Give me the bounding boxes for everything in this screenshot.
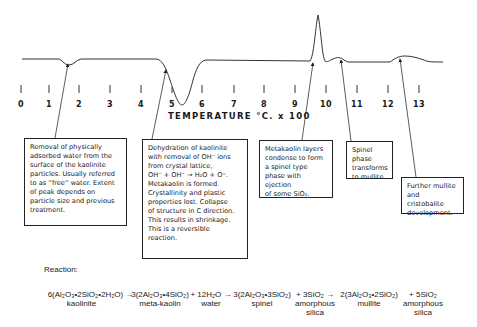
annotation-line: of peak depends on: [30, 188, 121, 197]
reaction-formula: 3(2Al₂O₃•3SiO₂): [230, 290, 294, 299]
annotation-line: Spinel phase: [352, 146, 387, 164]
annotation-line: adsorbed water from the: [30, 152, 121, 161]
annotation-line: This results in shrinkage.: [148, 216, 242, 225]
tick-label-6: 6: [199, 100, 205, 109]
tick-label-13: 13: [413, 100, 425, 109]
annotation-line: development.: [407, 209, 458, 218]
annotation-mullite-cristobalite: Further mullite and cristobalite develop…: [401, 177, 464, 214]
annotation-line: This is a reversible: [148, 225, 242, 234]
x-axis-ticks: [21, 85, 419, 93]
annotation-line: OH⁻ + OH⁻ → H₂O + O⁼.: [148, 171, 242, 180]
reaction-formula: + 12H₂O →: [186, 290, 236, 299]
tick-label-9: 9: [292, 100, 298, 109]
annotation-line: reaction.: [148, 234, 242, 243]
tick-label-8: 8: [261, 100, 267, 109]
reaction-compound-name: water: [186, 299, 236, 308]
reaction-compound-name: silica: [292, 308, 338, 317]
reaction-formula: 3(2Al₂O₃•4SiO₂): [125, 290, 195, 299]
x-axis-title: TEMPERATURE °C. x 100: [168, 111, 311, 121]
reaction-term-mullite: 2(3Al₂O₃•2SiO₂) mullite: [337, 290, 401, 308]
annotation-line: properties lost. Collapse: [148, 198, 242, 207]
annotation-line: from crystal lattice,: [148, 162, 242, 171]
reaction-compound-name: spinel: [230, 299, 294, 308]
reaction-formula: 2(3Al₂O₃•2SiO₂): [337, 290, 401, 299]
tick-label-4: 4: [138, 100, 144, 109]
annotation-spinel-to-mullite: Spinel phase transforms to mullite.: [346, 141, 393, 179]
annotation-line: treatment.: [30, 206, 121, 215]
tick-label-2: 2: [76, 100, 82, 109]
annotation-line: to mullite.: [352, 173, 387, 182]
reaction-term-kaolinite: 6(Al₂O₃•2SiO₂•2H₂O) → kaolinite: [43, 290, 138, 308]
annotation-line: Metakaolin is formed.: [148, 180, 242, 189]
tick-label-12: 12: [382, 100, 394, 109]
reaction-compound-name: silica: [400, 308, 446, 317]
dta-curve: [22, 15, 443, 105]
annotation-line: phase with ejection: [265, 172, 327, 190]
reaction-term-amorphous-silica-1: + 3SiO₂ → amorphous silica: [292, 290, 338, 317]
tick-label-5: 5: [169, 100, 175, 109]
reaction-compound-name: meta-kaolin: [125, 299, 195, 308]
annotation-line: particle size and previous: [30, 197, 121, 206]
annotation-line: Dehydration of kaolinite: [148, 144, 242, 153]
tick-label-10: 10: [320, 100, 332, 109]
reaction-compound-name: amorphous: [292, 299, 338, 308]
annotation-line: transforms: [352, 164, 387, 173]
annotation-line: of some SiO₂.: [265, 190, 327, 199]
reaction-label: Reaction:: [44, 265, 78, 274]
reaction-term-water: + 12H₂O → water: [186, 290, 236, 308]
annotation-line: condense to form: [265, 154, 327, 163]
reaction-term-spinel: 3(2Al₂O₃•3SiO₂) spinel: [230, 290, 294, 308]
reaction-term-meta-kaolin: 3(2Al₂O₃•4SiO₂) meta-kaolin: [125, 290, 195, 308]
reaction-compound-name: mullite: [337, 299, 401, 308]
annotation-line: Metakaolin layers: [265, 145, 327, 154]
annotation-line: and cristobalite: [407, 191, 458, 209]
reaction-compound-name: amorphous: [400, 299, 446, 308]
annotation-line: a spinel type: [265, 163, 327, 172]
tick-label-11: 11: [351, 100, 363, 109]
annotation-line: particles. Usually referred: [30, 170, 121, 179]
reaction-compound-name: kaolinite: [43, 299, 138, 308]
tick-label-0: 0: [18, 100, 24, 109]
annotation-line: Further mullite: [407, 182, 458, 191]
annotation-line: Crystallinity and plastic: [148, 189, 242, 198]
reaction-formula: + 3SiO₂ →: [292, 290, 338, 299]
annotation-spinel-formation: Metakaolin layers condense to form a spi…: [259, 140, 333, 198]
annotation-line: of structure in C direction.: [148, 207, 242, 216]
annotation-line: surface of the kaolinite: [30, 161, 121, 170]
annotation-line: to as ''free'' water. Extent: [30, 179, 121, 188]
tick-label-1: 1: [46, 100, 52, 109]
annotation-line: with removal of OH⁻ ions: [148, 153, 242, 162]
annotation-free-water: Removal of physically adsorbed water fro…: [24, 138, 127, 226]
tick-label-7: 7: [231, 100, 237, 109]
reaction-term-amorphous-silica-2: + 5SiO₂ amorphous silica: [400, 290, 446, 317]
reaction-formula: + 5SiO₂: [400, 290, 446, 299]
annotation-line: Removal of physically: [30, 143, 121, 152]
tick-label-3: 3: [107, 100, 113, 109]
annotation-dehydration: Dehydration of kaolinite with removal of…: [142, 139, 248, 259]
reaction-formula: 6(Al₂O₃•2SiO₂•2H₂O) →: [43, 290, 138, 299]
